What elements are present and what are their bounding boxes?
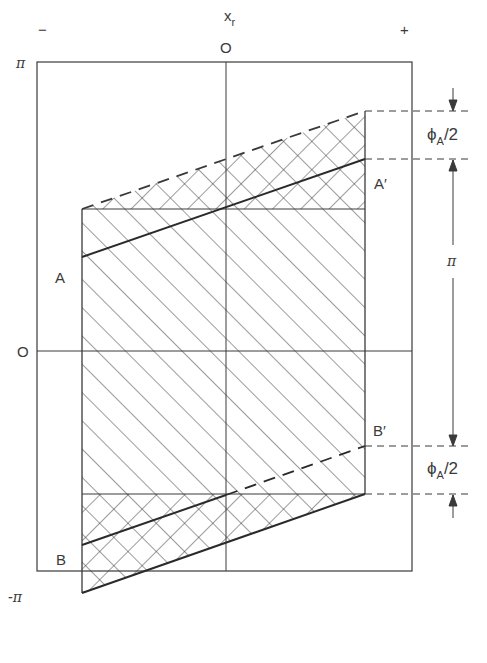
y-bottom-label: -π bbox=[8, 590, 22, 604]
x-axis-label: xr bbox=[224, 8, 235, 28]
region-label-A: A bbox=[55, 270, 65, 285]
y-zero-label: O bbox=[17, 344, 29, 359]
y-top-label: π bbox=[16, 56, 25, 70]
region-label-B-prime: B′ bbox=[373, 423, 386, 438]
dimension-pi-middle: π bbox=[447, 254, 456, 268]
dimension-phi-top: ϕA/2 bbox=[427, 126, 458, 147]
region-label-A-prime: A′ bbox=[374, 176, 387, 191]
x-zero-label: O bbox=[220, 40, 232, 55]
dimension-phi-bottom: ϕA/2 bbox=[427, 460, 458, 481]
x-minus-label: − bbox=[38, 22, 47, 37]
phase-diagram bbox=[0, 0, 487, 663]
dimension-arrows bbox=[449, 88, 457, 518]
crosshatch-bottom bbox=[82, 490, 366, 600]
region-label-B: B bbox=[56, 552, 66, 567]
x-plus-label: + bbox=[400, 22, 409, 37]
